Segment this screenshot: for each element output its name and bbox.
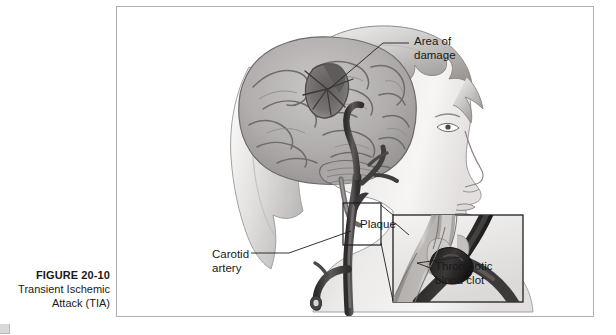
label-area-of-damage: Area of damage (414, 35, 456, 62)
medical-illustration: Area of damage Carotid artery Plaque Thr… (117, 7, 593, 316)
label-area-of-damage-line-1: Area of (414, 35, 456, 49)
label-carotid-artery-line-1: Carotid (212, 248, 249, 262)
figure-frame: Area of damage Carotid artery Plaque Thr… (116, 6, 594, 317)
figure-title-line-2: Attack (TIA) (6, 296, 110, 310)
label-plaque-text: Plaque (360, 218, 396, 232)
illustration-svg (117, 7, 593, 316)
figure-caption: FIGURE 20-10 Transient Ischemic Attack (… (6, 268, 110, 310)
figure-number: FIGURE 20-10 (6, 268, 110, 282)
page-edge-artifact (0, 324, 10, 334)
label-thrombotic-line-1: Thrombotic (435, 260, 493, 274)
label-area-of-damage-line-2: damage (414, 49, 456, 63)
label-plaque: Plaque (360, 218, 396, 232)
background-bleed-artifact (12, 52, 108, 112)
label-thrombotic-blood-clot: Thrombotic blood clot (435, 260, 493, 287)
label-carotid-artery: Carotid artery (212, 248, 249, 275)
label-thrombotic-line-2: blood clot (435, 274, 493, 288)
figure-title-line-1: Transient Ischemic (6, 282, 110, 296)
page-root: FIGURE 20-10 Transient Ischemic Attack (… (0, 0, 616, 335)
label-carotid-artery-line-2: artery (212, 262, 249, 276)
